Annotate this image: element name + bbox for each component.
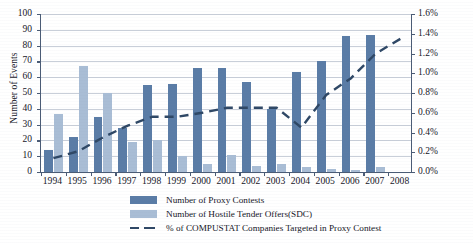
x-tick: [115, 172, 116, 176]
x-tick: [215, 172, 216, 176]
dashed-percent-line: [53, 39, 400, 159]
y-tick-label-right: 1.4%: [418, 29, 452, 38]
legend-item: Number of Hostile Tender Offers(SDC): [130, 207, 381, 221]
x-tick-label: 2006: [338, 175, 363, 186]
x-tick-label: 1999: [164, 175, 189, 186]
y-tick-right: [411, 172, 415, 173]
x-tick-label: 1995: [65, 175, 90, 186]
legend-label: Number of Proxy Contests: [166, 195, 264, 205]
x-tick-label: 2007: [362, 175, 387, 186]
x-tick: [41, 172, 42, 176]
chart-legend: Number of Proxy ContestsNumber of Hostil…: [130, 193, 381, 235]
x-tick-label: 1997: [114, 175, 139, 186]
legend-swatch-dark-swatch: [130, 196, 157, 204]
x-tick-label: 2004: [288, 175, 313, 186]
y-tick-label-right: 0.0%: [418, 167, 452, 176]
y-tick-label-left: 60: [2, 72, 32, 81]
legend-item: Number of Proxy Contests: [130, 193, 381, 207]
y-tick-label-right: 0.8%: [418, 88, 452, 97]
x-tick: [140, 172, 141, 176]
x-tick: [239, 172, 240, 176]
y-tick-label-right: 1.6%: [418, 9, 452, 18]
y-tick-label-left: 70: [2, 56, 32, 65]
x-tick-label: 1996: [90, 175, 115, 186]
x-tick: [339, 172, 340, 176]
x-tick-label: 1994: [40, 175, 65, 186]
x-tick-label: 2003: [263, 175, 288, 186]
y-tick-label-right: 0.2%: [418, 147, 452, 156]
y-tick-label-left: 100: [2, 9, 32, 18]
legend-swatch-dashed-line: [130, 224, 157, 232]
legend-swatch-light-swatch: [130, 210, 157, 218]
y-tick-label-left: 90: [2, 25, 32, 34]
x-tick: [190, 172, 191, 176]
x-tick-label: 2000: [189, 175, 214, 186]
x-tick-label: 2005: [313, 175, 338, 186]
x-tick-label: 2008: [387, 175, 412, 186]
y-tick-label-left: 20: [2, 135, 32, 144]
y-tick-label-left: 40: [2, 104, 32, 113]
y-tick-label-right: 0.6%: [418, 108, 452, 117]
x-tick: [91, 172, 92, 176]
chart-figure: Number of Events % of COMPUSTAT Companie…: [0, 0, 473, 243]
x-tick: [363, 172, 364, 176]
y-tick-label-right: 0.4%: [418, 128, 452, 137]
y-tick-label-left: 10: [2, 151, 32, 160]
x-tick: [165, 172, 166, 176]
x-tick: [289, 172, 290, 176]
percent-line-series: [41, 14, 413, 172]
x-tick: [388, 172, 389, 176]
y-tick-label-right: 1.2%: [418, 49, 452, 58]
y-tick-label-left: 50: [2, 88, 32, 97]
bar-hostile-tender-offers: [351, 170, 360, 172]
x-tick-label: 2002: [238, 175, 263, 186]
y-tick-label-right: 1.0%: [418, 68, 452, 77]
x-tick: [66, 172, 67, 176]
legend-item: % of COMPUSTAT Companies Targeted in Pro…: [130, 221, 381, 235]
y-tick-label-left: 80: [2, 41, 32, 50]
x-tick: [264, 172, 265, 176]
legend-label: Number of Hostile Tender Offers(SDC): [166, 209, 312, 219]
plot-area: [40, 14, 412, 172]
x-tick-label: 2001: [214, 175, 239, 186]
x-tick-label: 1998: [139, 175, 164, 186]
y-tick-label-left: 30: [2, 120, 32, 129]
y-tick-label-left: 0: [2, 167, 32, 176]
x-tick: [314, 172, 315, 176]
legend-label: % of COMPUSTAT Companies Targeted in Pro…: [166, 223, 381, 233]
